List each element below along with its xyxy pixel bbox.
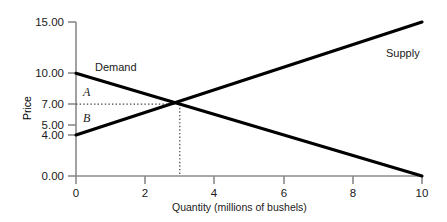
supply-curve [76, 22, 422, 135]
y-tick-label-0: 0.00 [16, 170, 64, 182]
x-tick-label-6: 6 [270, 187, 298, 199]
y-axis-title: Price [21, 96, 33, 120]
supply-demand-chart: 15.00 10.00 7.00 5.00 4.00 0.00 0 2 4 6 … [0, 0, 447, 222]
x-tick-label-2: 2 [131, 187, 159, 199]
demand-curve [76, 73, 422, 176]
y-tick-label-15: 15.00 [16, 16, 64, 28]
x-tick-label-10: 10 [408, 187, 436, 199]
demand-curve-label: Demand [95, 61, 137, 73]
x-tick-label-4: 4 [200, 187, 228, 199]
y-tick-label-10: 10.00 [16, 67, 64, 79]
area-label-a: A [83, 85, 90, 100]
y-tick-label-4: 4.00 [16, 129, 64, 141]
x-tick-label-8: 8 [339, 187, 367, 199]
x-axis-title: Quantity (millions of bushels) [172, 201, 307, 213]
x-tick-label-0: 0 [62, 187, 90, 199]
area-label-b: B [83, 111, 90, 126]
supply-curve-label: Supply [386, 47, 420, 59]
